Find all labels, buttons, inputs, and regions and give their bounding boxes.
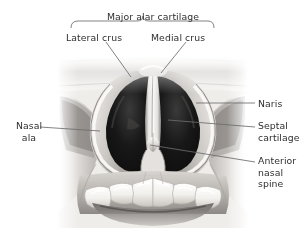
label-anterior-nasal-spine-line2: nasal spine xyxy=(258,167,306,190)
tooth-lateral-incisor-left xyxy=(109,183,134,204)
label-lateral-crus: Lateral crus xyxy=(66,32,122,44)
label-septal-cartilage-line2: cartilage xyxy=(258,132,306,144)
label-nasal-ala: Nasal ala xyxy=(10,120,48,143)
label-nasal-ala-line1: Nasal xyxy=(10,120,48,132)
label-anterior-nasal-spine-line1: Anterior xyxy=(258,155,306,167)
label-naris: Naris xyxy=(258,98,282,110)
label-major-alar-cartilage: Major alar cartilage xyxy=(0,11,306,23)
label-medial-crus: Medial crus xyxy=(151,32,205,44)
illustration-plate xyxy=(57,54,248,228)
label-anterior-nasal-spine: Anterior nasal spine xyxy=(258,155,306,190)
label-septal-cartilage-line1: Septal xyxy=(258,120,306,132)
label-nasal-ala-line2: ala xyxy=(10,132,48,144)
anatomy-figure: Major alar cartilage Lateral crus Medial… xyxy=(0,0,306,228)
tooth-lateral-incisor-right xyxy=(173,183,198,204)
label-septal-cartilage: Septal cartilage xyxy=(258,120,306,143)
